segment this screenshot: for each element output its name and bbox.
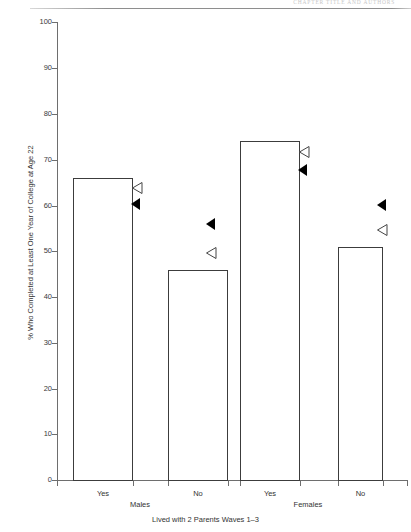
bar-males-no bbox=[168, 270, 228, 481]
x-label-females-yes: Yes bbox=[240, 489, 300, 498]
y-axis-line bbox=[57, 22, 58, 481]
header-rule bbox=[30, 8, 411, 9]
y-tick-label-80: 80 bbox=[10, 110, 52, 118]
x-tick-8 bbox=[407, 480, 408, 486]
x-tick-7 bbox=[383, 480, 384, 486]
x-group-label-males: Males bbox=[110, 500, 170, 509]
y-tick-80 bbox=[52, 114, 57, 115]
y-tick-label-90: 90 bbox=[10, 64, 52, 72]
hollow-triangle-marker-females-no bbox=[377, 224, 387, 236]
hollow-triangle-marker-males-no bbox=[206, 247, 216, 259]
y-tick-70 bbox=[52, 160, 57, 161]
y-tick-60 bbox=[52, 206, 57, 207]
y-tick-100 bbox=[52, 22, 57, 23]
y-axis-title: % Who Completed at Least One Year of Col… bbox=[26, 118, 35, 368]
y-tick-50 bbox=[52, 251, 57, 252]
bar-females-yes bbox=[240, 141, 300, 481]
hollow-triangle-marker-females-yes bbox=[299, 146, 309, 158]
x-group-label-females: Females bbox=[278, 500, 338, 509]
solid-triangle-marker-females-no bbox=[377, 199, 386, 211]
y-tick-label-100: 100 bbox=[10, 18, 52, 26]
bar-males-yes bbox=[73, 178, 133, 481]
solid-triangle-marker-females-yes bbox=[298, 164, 307, 176]
x-tick-1 bbox=[133, 480, 134, 486]
y-tick-label-0: 0 bbox=[10, 476, 52, 484]
solid-triangle-marker-males-yes bbox=[131, 198, 140, 210]
y-tick-40 bbox=[52, 297, 57, 298]
y-tick-label-10: 10 bbox=[10, 430, 52, 438]
y-tick-20 bbox=[52, 389, 57, 390]
x-tick-0 bbox=[57, 480, 58, 486]
x-label-males-no: No bbox=[168, 489, 228, 498]
y-tick-10 bbox=[52, 434, 57, 435]
y-tick-label-20: 20 bbox=[10, 385, 52, 393]
solid-triangle-marker-males-no bbox=[206, 218, 215, 230]
chart-page: CHAPTER TITLE AND AUTHORS 100 90 80 70 6… bbox=[0, 0, 411, 532]
running-head: CHAPTER TITLE AND AUTHORS bbox=[150, 0, 395, 6]
x-tick-5 bbox=[300, 480, 301, 486]
x-label-females-no: No bbox=[338, 489, 383, 498]
y-tick-90 bbox=[52, 68, 57, 69]
x-tick-3 bbox=[228, 480, 229, 486]
bar-females-no bbox=[338, 247, 383, 481]
x-label-males-yes: Yes bbox=[73, 489, 133, 498]
y-tick-30 bbox=[52, 343, 57, 344]
hollow-triangle-marker-males-yes bbox=[132, 182, 142, 194]
x-axis-title: Lived with 2 Parents Waves 1–3 bbox=[0, 515, 411, 524]
